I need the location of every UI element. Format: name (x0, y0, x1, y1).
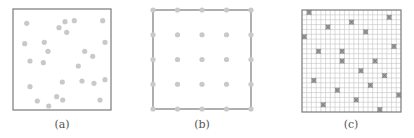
panel-a-dot (100, 18, 105, 23)
panel-a-dot (42, 40, 47, 45)
panel-b-dot (175, 57, 180, 62)
panel-b-dot (199, 32, 204, 37)
panel-a-dot (54, 94, 59, 99)
panel-b-dot (248, 57, 253, 62)
caption-c: (c) (331, 118, 371, 131)
panel-b-dot (224, 106, 229, 111)
panel-a-dot (22, 41, 27, 46)
panel-a-dot (24, 21, 29, 26)
panel-b-dot (224, 82, 229, 87)
panel-a-dot (35, 98, 40, 103)
panel-a-dot (62, 19, 67, 24)
panel-a-dot (102, 40, 107, 45)
panel-a-dot (64, 30, 69, 35)
panel-a-dot (82, 49, 87, 54)
figure: (a) (b) (c) (0, 0, 414, 138)
panel-b-dot (150, 82, 155, 87)
panel-b-dot (248, 7, 253, 12)
panel-b-dot (175, 7, 180, 12)
panel-a-dot (72, 18, 77, 23)
panel-b-dot (248, 82, 253, 87)
panel-a-dot (90, 54, 95, 59)
panel-a-dot (45, 49, 50, 54)
panel-b-dot (150, 57, 155, 62)
panel-b-dot (199, 57, 204, 62)
panel-b-dot (199, 7, 204, 12)
panel-b-dot (224, 32, 229, 37)
panel-b-dot (199, 82, 204, 87)
panel-a-dot (27, 58, 32, 63)
caption-a: (a) (42, 118, 82, 131)
panel-b-dot (150, 7, 155, 12)
panel-a-dot (76, 63, 81, 68)
panel-a-dot (79, 78, 84, 83)
panel-b-dot (248, 106, 253, 111)
panel-a-dot (60, 97, 65, 102)
panel-a-dot (97, 97, 102, 102)
panel-b-dot (248, 32, 253, 37)
panel-b-dot (150, 106, 155, 111)
panel-a-dot (60, 79, 65, 84)
panel-b-dot (175, 32, 180, 37)
panel-a-dot (46, 103, 51, 108)
panel-a-dot (56, 25, 61, 30)
panel-a-dot (102, 77, 107, 82)
panel-b-dot (224, 57, 229, 62)
panel-b-dot (199, 106, 204, 111)
panel-b-dot (175, 106, 180, 111)
panel-c-frame (302, 10, 401, 112)
caption-b: (b) (182, 118, 222, 131)
panel-b-dot (224, 7, 229, 12)
panel-b-dot (150, 32, 155, 37)
panel-a-dot (91, 81, 96, 86)
panel-a-dot (27, 84, 32, 89)
panel-b-dot (175, 82, 180, 87)
panel-a-dot (41, 60, 46, 65)
